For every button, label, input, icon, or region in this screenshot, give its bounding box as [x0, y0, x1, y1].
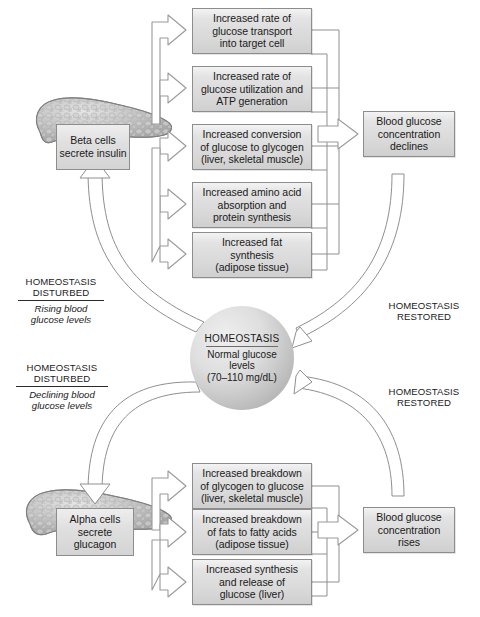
caption-homeostasis-disturbed-top: HOMEOSTASIS DISTURBED Rising blood gluco…: [6, 276, 116, 325]
caption-status: HOMEOSTASIS DISTURBED: [6, 276, 116, 298]
effect-box-glucose-transport[interactable]: Increased rate of glucose transport into…: [192, 8, 312, 54]
source-box-alpha-cells[interactable]: Alpha cells secrete glucagon: [56, 508, 134, 556]
effect-label: Increased amino acid absorption and prot…: [203, 186, 302, 223]
effect-label: Increased synthesis and release of gluco…: [206, 563, 298, 600]
homeostasis-divider: [206, 346, 278, 347]
caption-homeostasis-restored-top: HOMEOSTASIS RESTORED: [372, 300, 476, 322]
insulin-merge-arrow: [318, 119, 358, 149]
effect-box-glycogen-conversion[interactable]: Increased conversion of glucose to glyco…: [192, 124, 312, 170]
caption-homeostasis-disturbed-bottom: HOMEOSTASIS DISTURBED Declining blood gl…: [6, 362, 118, 411]
effect-label: Increased breakdown of glycogen to gluco…: [200, 467, 303, 504]
caption-status: HOMEOSTASIS RESTORED: [372, 386, 476, 408]
glucagon-merge-arrow: [318, 515, 358, 545]
diagram-canvas: Increased rate of glucose transport into…: [0, 0, 480, 617]
source-box-beta-cells[interactable]: Beta cells secrete insulin: [56, 124, 130, 170]
effect-label: Increased breakdown of fats to fatty aci…: [202, 513, 301, 550]
insulin-effect-arrows: [152, 15, 186, 269]
effect-box-fat-breakdown[interactable]: Increased breakdown of fats to fatty aci…: [192, 509, 312, 555]
caption-detail: Rising blood glucose levels: [6, 303, 116, 325]
caption-divider: [18, 300, 104, 301]
outcome-label: Blood glucose concentration rises: [376, 511, 441, 548]
effect-box-glucose-utilization[interactable]: Increased rate of glucose utilization an…: [192, 66, 312, 112]
effect-label: Increased rate of glucose transport into…: [212, 12, 292, 49]
effect-box-glucose-synthesis[interactable]: Increased synthesis and release of gluco…: [192, 559, 312, 605]
effect-label: Increased fat synthesis (adipose tissue): [215, 236, 288, 273]
glucagon-effect-arrows: [152, 471, 186, 597]
effect-box-glycogen-breakdown[interactable]: Increased breakdown of glycogen to gluco…: [192, 463, 312, 509]
insulin-outcome-collectors: [311, 30, 339, 270]
caption-status: HOMEOSTASIS RESTORED: [372, 300, 476, 322]
caption-detail: Declining blood glucose levels: [6, 389, 118, 411]
effect-label: Increased conversion of glucose to glyco…: [200, 128, 303, 165]
caption-homeostasis-restored-bottom: HOMEOSTASIS RESTORED: [372, 386, 476, 408]
outcome-box-glucose-rises[interactable]: Blood glucose concentration rises: [363, 507, 455, 553]
effect-box-fat-synthesis[interactable]: Increased fat synthesis (adipose tissue): [192, 232, 312, 278]
source-label: Alpha cells secrete glucagon: [57, 513, 133, 551]
effect-box-amino-acid-absorption[interactable]: Increased amino acid absorption and prot…: [192, 182, 312, 228]
effect-label: Increased rate of glucose utilization an…: [201, 70, 303, 107]
source-label: Beta cells secrete insulin: [57, 134, 129, 159]
outcome-label: Blood glucose concentration declines: [376, 115, 441, 152]
homeostasis-heading: HOMEOSTASIS: [205, 333, 280, 344]
homeostasis-body: Normal glucose levels (70–110 mg/dL): [207, 349, 277, 384]
outcome-box-glucose-declines[interactable]: Blood glucose concentration declines: [363, 111, 455, 157]
caption-divider: [16, 386, 108, 387]
caption-status: HOMEOSTASIS DISTURBED: [6, 362, 118, 384]
glucagon-outcome-collectors: [311, 486, 339, 596]
homeostasis-node[interactable]: HOMEOSTASIS Normal glucose levels (70–11…: [190, 306, 294, 410]
